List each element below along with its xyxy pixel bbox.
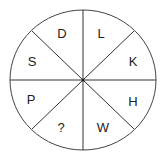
segment-label-right-upper: K bbox=[129, 54, 138, 69]
letter-wheel-diagram: D L K H W ? P S bbox=[0, 0, 164, 155]
segment-label-left-upper: S bbox=[28, 54, 37, 69]
segment-label-top-left: D bbox=[57, 26, 66, 41]
segment-label-top-right: L bbox=[97, 26, 104, 41]
segment-label-bottom-right: W bbox=[97, 120, 110, 135]
segment-label-right-lower: H bbox=[128, 94, 137, 109]
segment-label-bottom-left: ? bbox=[57, 120, 64, 135]
center-dot bbox=[82, 79, 85, 82]
segment-label-left-lower: P bbox=[27, 92, 36, 107]
